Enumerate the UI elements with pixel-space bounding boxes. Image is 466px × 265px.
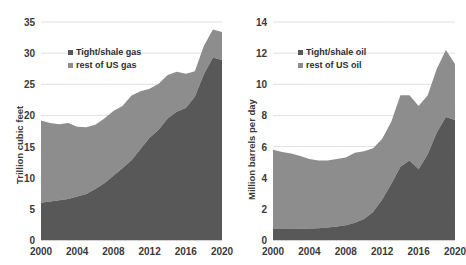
y-tick-label: 5 [3, 203, 35, 214]
x-tick-label: 2008 [102, 246, 124, 257]
x-tick-label: 2020 [211, 246, 233, 257]
legend-item: Tight/shale gas [68, 47, 141, 57]
legend-item-label: Tight/shale oil [306, 47, 366, 57]
y-tick-label: 25 [3, 79, 35, 90]
x-tick-label: 2004 [298, 246, 320, 257]
x-tick-label: 2012 [138, 246, 160, 257]
x-tick-label: 2004 [66, 246, 88, 257]
y-tick-label: 10 [3, 172, 35, 183]
y-tick-label: 30 [3, 48, 35, 59]
legend-item: rest of US oil [298, 60, 366, 70]
y-tick-label: 12 [235, 48, 267, 59]
legend-item-label: Tight/shale gas [76, 47, 141, 57]
legend-swatch-icon [298, 50, 303, 55]
x-tick-label: 2000 [262, 246, 284, 257]
y-tick-label: 15 [3, 141, 35, 152]
left-legend: Tight/shale gasrest of US gas [68, 47, 141, 70]
legend-swatch-icon [68, 63, 73, 68]
y-tick-label: 8 [235, 110, 267, 121]
legend-item-label: rest of US gas [76, 60, 137, 70]
y-tick-label: 35 [3, 17, 35, 28]
x-tick-label: 2020 [444, 246, 466, 257]
x-tick-label: 2000 [30, 246, 52, 257]
legend-item: Tight/shale oil [298, 47, 366, 57]
legend-item-label: rest of US oil [306, 60, 362, 70]
y-tick-label: 0 [3, 235, 35, 246]
right-legend: Tight/shale oilrest of US oil [298, 47, 366, 70]
panel-us-oil-production: Million barrels per day 02468101214 2000… [232, 0, 465, 265]
x-tick-label: 2016 [407, 246, 429, 257]
y-tick-label: 2 [235, 203, 267, 214]
x-tick-label: 2008 [335, 246, 357, 257]
legend-swatch-icon [68, 50, 73, 55]
x-tick-label: 2012 [371, 246, 393, 257]
legend-swatch-icon [298, 63, 303, 68]
y-tick-label: 10 [235, 79, 267, 90]
x-tick-label: 2016 [175, 246, 197, 257]
y-tick-label: 4 [235, 172, 267, 183]
y-tick-label: 0 [235, 235, 267, 246]
y-tick-label: 14 [235, 17, 267, 28]
y-tick-label: 20 [3, 110, 35, 121]
legend-item: rest of US gas [68, 60, 141, 70]
panel-us-gas-production: Trillion cubic feet 05101520253035 20002… [0, 0, 232, 265]
y-tick-label: 6 [235, 141, 267, 152]
